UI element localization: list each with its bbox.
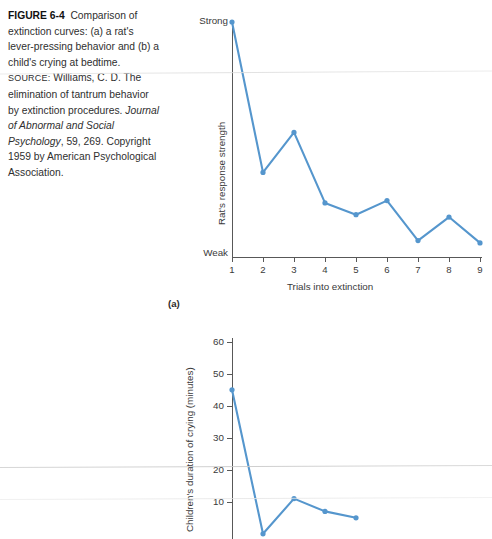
chart-a-plot-area [170,0,492,320]
chart-a-panel-label: (a) [168,298,180,309]
data-series-line [232,390,356,534]
data-series-line [232,22,480,243]
data-point-marker [477,240,482,245]
data-point-marker [229,387,234,392]
chart-panel-a: Strong Weak Rat's response strength 1 2 … [170,0,492,320]
chart-b-plot-area [170,320,492,539]
data-point-marker [415,238,420,243]
chart-panel-b: 60 50 40 30 20 10 Children's duration of… [170,320,492,539]
figure-page: FIGURE 6-4 Comparison of extinction curv… [0,0,492,539]
figure-number: FIGURE 6-4 [8,10,65,21]
data-point-marker [446,214,451,219]
data-point-marker [353,515,358,520]
data-point-marker [291,130,296,135]
data-point-marker [384,198,389,203]
data-point-marker [260,531,265,536]
figure-caption: FIGURE 6-4 Comparison of extinction curv… [8,8,160,181]
data-point-marker [260,170,265,175]
source-label: SOURCE: [8,73,50,83]
data-point-marker [322,509,327,514]
data-point-marker [291,496,296,501]
data-point-marker [229,19,234,24]
data-point-marker [353,212,358,217]
data-point-marker [322,200,327,205]
